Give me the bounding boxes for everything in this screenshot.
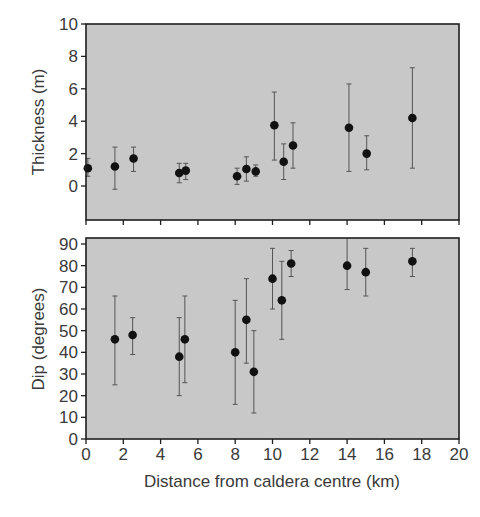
x-tick-label: 8 — [230, 445, 239, 464]
y-tick-label: 10 — [59, 408, 78, 427]
y-tick-label: 20 — [59, 387, 78, 406]
dip-axis-label: Dip (degrees) — [29, 288, 48, 391]
x-tick-label: 0 — [81, 445, 90, 464]
x-tick-label: 18 — [412, 445, 431, 464]
y-tick-label: 30 — [59, 365, 78, 384]
y-tick-label: 4 — [69, 112, 78, 131]
thickness-panel: 0246810 — [59, 15, 459, 225]
data-point — [111, 162, 120, 171]
thickness-axis-label: Thickness (m) — [29, 69, 48, 176]
data-point — [251, 167, 260, 176]
data-point — [278, 296, 287, 305]
data-point — [181, 335, 190, 344]
y-tick-label: 0 — [69, 430, 78, 449]
y-tick-label: 70 — [59, 278, 78, 297]
data-point — [343, 261, 352, 270]
y-tick-label: 6 — [69, 80, 78, 99]
data-point — [287, 259, 296, 268]
x-tick-label: 12 — [300, 445, 319, 464]
y-tick-label: 8 — [69, 47, 78, 66]
data-point — [345, 123, 354, 132]
data-point — [361, 268, 370, 277]
data-point — [111, 335, 120, 344]
data-point — [242, 316, 251, 325]
x-tick-label: 4 — [156, 445, 165, 464]
x-tick-label: 20 — [450, 445, 469, 464]
data-point — [129, 154, 138, 163]
data-point — [84, 164, 93, 173]
data-point — [270, 121, 279, 130]
x-tick-label: 2 — [119, 445, 128, 464]
distance-axis-label: Distance from caldera centre (km) — [144, 472, 400, 491]
y-tick-label: 90 — [59, 235, 78, 254]
data-point — [233, 172, 242, 181]
x-tick-label: 10 — [263, 445, 282, 464]
y-tick-label: 2 — [69, 145, 78, 164]
chart-figure: 0246810 01020304050607080900246810121416… — [0, 0, 480, 517]
y-tick-label: 0 — [69, 177, 78, 196]
x-tick-label: 16 — [375, 445, 394, 464]
data-point — [128, 331, 137, 340]
data-point — [408, 257, 417, 266]
data-point — [242, 165, 251, 174]
y-tick-label: 50 — [59, 322, 78, 341]
y-tick-label: 10 — [59, 15, 78, 34]
data-point — [408, 114, 417, 123]
data-point — [175, 352, 184, 361]
y-tick-label: 80 — [59, 257, 78, 276]
y-tick-label: 40 — [59, 343, 78, 362]
data-point — [268, 274, 277, 283]
dip-panel: 010203040506070809002468101214161820 — [59, 235, 468, 464]
data-point — [279, 157, 288, 166]
data-point — [231, 348, 240, 357]
y-tick-label: 60 — [59, 300, 78, 319]
x-tick-label: 14 — [338, 445, 357, 464]
data-point — [289, 141, 298, 150]
data-point — [181, 166, 190, 175]
data-point — [362, 149, 371, 158]
x-tick-label: 6 — [193, 445, 202, 464]
data-point — [250, 368, 259, 377]
